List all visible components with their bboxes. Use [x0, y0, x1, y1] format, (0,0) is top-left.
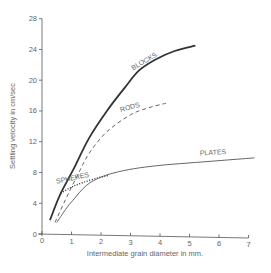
y-tick-label: 16: [29, 106, 37, 115]
x-tick-label: 0: [40, 236, 44, 245]
curve-blocks: [50, 46, 195, 221]
x-axis-label: Intermediate grain diameter in mm.: [87, 249, 203, 258]
x-tick-label: 7: [246, 240, 250, 249]
x-tick-label: 5: [187, 239, 191, 248]
curves: [50, 46, 254, 223]
x-tick-label: 3: [128, 238, 132, 247]
y-tick-label: 8: [33, 168, 37, 177]
x-tick-label: 2: [99, 237, 103, 246]
y-tick-label: 4: [33, 199, 37, 208]
x-tick-label: 1: [69, 237, 73, 246]
y-tick-label: 28: [29, 14, 37, 23]
curve-rods: [55, 103, 166, 222]
curve-label-plates: PLATES: [200, 148, 227, 156]
y-tick-label: 20: [29, 76, 37, 85]
x-tick-label: 4: [158, 238, 162, 247]
axes: 048121620242801234567: [29, 14, 251, 249]
y-axis-label: Settling velocity in cm/sec: [8, 83, 17, 169]
y-tick-label: 0: [33, 230, 37, 239]
y-tick-label: 12: [29, 137, 37, 146]
curve-labels: BLOCKSRODSSPHERESPLATES: [55, 51, 226, 185]
x-tick-label: 6: [217, 239, 221, 248]
chart-svg: 048121620242801234567 BLOCKSRODSSPHERESP…: [0, 0, 271, 273]
y-tick-label: 24: [29, 45, 37, 54]
curve-plates: [57, 158, 255, 223]
settling-velocity-chart: 048121620242801234567 BLOCKSRODSSPHERESP…: [0, 0, 271, 273]
